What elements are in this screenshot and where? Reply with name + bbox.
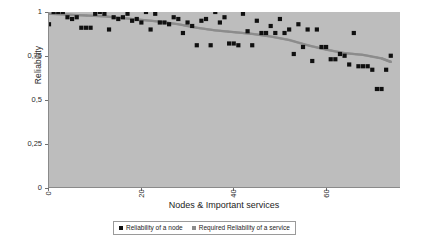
data-point [56,12,60,14]
data-point [190,24,194,28]
data-point [195,43,199,47]
data-point [296,22,300,26]
data-point [366,64,370,68]
y-tick-label: 0,25 [2,139,42,148]
data-point [227,41,231,45]
data-point [250,43,254,47]
data-point [121,15,125,19]
data-point [315,27,319,31]
data-point [356,64,360,68]
data-point [301,45,305,49]
plot-canvas [49,12,400,187]
chart-figure: Reliability 00,250,50,751 0204060 Nodes … [0,0,423,251]
data-point [112,15,116,19]
data-point [361,64,365,68]
data-point [278,17,282,21]
data-point [310,59,314,63]
data-point [162,20,166,24]
data-point [213,12,217,14]
data-point [347,62,351,66]
y-axis-title: Reliability [33,25,43,105]
data-point [167,22,171,26]
x-axis-title: Nodes & Important services [48,200,400,210]
data-point [241,12,245,16]
plot-area [48,12,400,188]
data-point [139,20,143,24]
data-point [333,57,337,61]
data-point [218,20,222,24]
data-point [255,19,259,23]
data-point [282,31,286,35]
data-point [306,27,310,31]
y-tick-label: 0 [2,183,42,192]
data-point [232,41,236,45]
data-point [116,17,120,21]
data-point [352,31,356,35]
legend-label-node: Reliability of a node [126,225,183,232]
data-point [130,19,134,23]
data-point [273,31,277,35]
data-point [222,15,226,19]
data-point [79,26,83,30]
legend-label-service: Required Reliability of a service [199,225,290,232]
data-point [204,17,208,21]
data-point [379,87,383,91]
y-tick-label: 1 [2,7,42,16]
data-point [264,31,268,35]
legend-entry-service: Required Reliability of a service [192,225,290,232]
data-point [181,31,185,35]
data-point [93,12,97,16]
data-point [102,12,106,16]
data-point [319,45,323,49]
data-point [292,52,296,56]
data-point [199,19,203,23]
y-tick-label: 0,5 [2,95,42,104]
data-point [342,54,346,58]
data-point [246,29,250,33]
data-point [384,68,388,72]
data-point [236,43,240,47]
data-point [61,12,65,14]
data-point [269,24,273,28]
data-point [70,17,74,21]
data-point [338,52,342,56]
data-point [370,68,374,72]
data-point [324,45,328,49]
data-point [135,17,139,21]
data-point [144,12,148,14]
y-tick-label: 0,75 [2,51,42,60]
data-point [153,12,157,16]
chart-legend: Reliability of a node Required Reliabili… [113,221,296,235]
data-point [107,27,111,31]
dotted-marker-icon [192,226,196,230]
data-point [329,57,333,61]
data-point [158,20,162,24]
data-point [49,22,51,26]
data-point [287,27,291,31]
data-point [375,87,379,91]
data-point [65,15,69,19]
data-point [209,43,213,47]
data-point [84,26,88,30]
data-point [125,12,129,16]
data-point [172,15,176,19]
legend-entry-node: Reliability of a node [119,225,183,232]
data-point [75,15,79,19]
data-point [149,27,153,31]
data-point [389,54,393,58]
square-marker-icon [119,226,123,230]
data-point [52,12,56,14]
data-point [98,12,102,14]
data-point [259,31,263,35]
data-point [185,20,189,24]
data-point [88,26,92,30]
data-point [176,17,180,21]
